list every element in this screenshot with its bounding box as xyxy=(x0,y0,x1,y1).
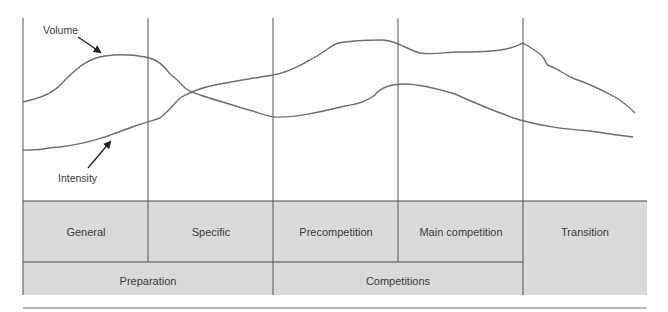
phase-specific: Specific xyxy=(192,226,231,238)
phase-precompetition: Precompetition xyxy=(299,226,372,238)
phase-preparation: Preparation xyxy=(120,275,177,287)
volume-arrow xyxy=(78,37,100,52)
phase-main-competition: Main competition xyxy=(419,226,502,238)
phase-table xyxy=(23,201,647,295)
volume-label: Volume xyxy=(43,24,78,36)
periodization-diagram: Volume Intensity General Specific Precom… xyxy=(0,0,668,312)
phase-general: General xyxy=(66,226,105,238)
volume-curve xyxy=(23,55,633,137)
intensity-arrow xyxy=(88,142,110,168)
phase-box-transition xyxy=(523,262,647,295)
phase-competitions: Competitions xyxy=(366,275,431,287)
intensity-label: Intensity xyxy=(58,172,98,184)
curve-annotations: Volume Intensity xyxy=(43,24,110,184)
intensity-curve xyxy=(23,40,635,150)
curves xyxy=(23,40,635,150)
phase-transition: Transition xyxy=(561,226,609,238)
